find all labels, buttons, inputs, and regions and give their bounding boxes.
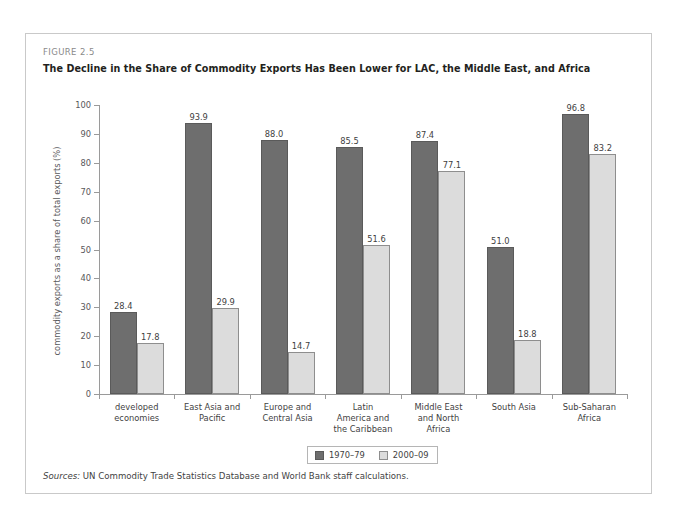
sources-note: Sources: UN Commodity Trade Statistics D… (43, 471, 409, 481)
y-tick (94, 192, 99, 193)
bar-value-label: 87.4 (416, 130, 434, 140)
legend-item-1970-79: 1970–79 (315, 450, 365, 460)
x-category-label-line: Central Asia (250, 413, 325, 424)
bar[interactable]: 85.5 (336, 147, 363, 394)
legend-swatch-2000-09 (379, 451, 388, 460)
x-category-label: LatinAmerica andthe Caribbean (325, 402, 400, 436)
x-axis-line (99, 394, 628, 395)
y-tick (94, 278, 99, 279)
bar-value-label: 96.8 (567, 103, 585, 113)
y-tick-label: 30 (80, 302, 91, 312)
bar[interactable]: 83.2 (589, 154, 616, 394)
x-category-label: developedeconomies (99, 402, 174, 424)
bar-value-label: 14.7 (292, 341, 310, 351)
bar-value-label: 28.4 (114, 301, 132, 311)
x-tick (325, 394, 326, 399)
y-axis-line (99, 105, 100, 394)
bar[interactable]: 88.0 (261, 140, 288, 394)
bar[interactable]: 51.0 (487, 247, 514, 394)
x-category-label-line: Pacific (174, 413, 249, 424)
plot-region: 0102030405060708090100 28.417.893.929.98… (99, 105, 627, 394)
x-category-label-line: America and (325, 413, 400, 424)
x-tick (627, 394, 628, 399)
bar[interactable]: 51.6 (363, 245, 390, 394)
y-tick-label: 10 (80, 360, 91, 370)
y-tick-label: 20 (80, 331, 91, 341)
chart-area: commodity exports as a share of total ex… (26, 34, 653, 434)
sources-text: UN Commodity Trade Statistics Database a… (80, 471, 409, 481)
x-category-label-line: developed (99, 402, 174, 413)
bar-value-label: 29.9 (216, 297, 234, 307)
y-tick-label: 100 (75, 100, 91, 110)
y-tick (94, 163, 99, 164)
bar-value-label: 77.1 (443, 160, 461, 170)
legend-item-2000-09: 2000–09 (379, 450, 429, 460)
bar[interactable]: 96.8 (562, 114, 589, 394)
x-category-label-line: Sub-Saharan (552, 402, 627, 413)
x-category-label-line: Africa (552, 413, 627, 424)
x-category-label-line: Europe and (250, 402, 325, 413)
bar-value-label: 85.5 (340, 136, 358, 146)
y-tick (94, 221, 99, 222)
y-tick-label: 80 (80, 158, 91, 168)
bar-value-label: 88.0 (265, 129, 283, 139)
bar[interactable]: 93.9 (185, 123, 212, 394)
bar-value-label: 51.0 (491, 236, 509, 246)
x-tick (99, 394, 100, 399)
legend-label-1970-79: 1970–79 (329, 450, 365, 460)
x-category-label-line: Middle East (401, 402, 476, 413)
bar-value-label: 17.8 (141, 332, 159, 342)
y-tick (94, 134, 99, 135)
bar[interactable]: 17.8 (137, 343, 164, 394)
x-tick (174, 394, 175, 399)
y-tick (94, 336, 99, 337)
y-axis-title: commodity exports as a share of total ex… (52, 136, 62, 366)
x-category-label-line: economies (99, 413, 174, 424)
x-tick (476, 394, 477, 399)
bar-value-label: 18.8 (518, 329, 536, 339)
y-tick-label: 0 (86, 389, 91, 399)
x-category-label-line: the Caribbean (325, 424, 400, 435)
y-tick-label: 70 (80, 187, 91, 197)
x-category-label-line: East Asia and (174, 402, 249, 413)
x-category-label: Europe andCentral Asia (250, 402, 325, 424)
x-category-label-line: Africa (401, 424, 476, 435)
bar-value-label: 83.2 (594, 143, 612, 153)
bar[interactable]: 28.4 (110, 312, 137, 394)
sources-label: Sources: (43, 471, 80, 481)
bar-value-label: 51.6 (367, 234, 385, 244)
y-tick-label: 60 (80, 216, 91, 226)
bar[interactable]: 14.7 (288, 352, 315, 394)
y-tick (94, 365, 99, 366)
y-tick-label: 40 (80, 273, 91, 283)
bar[interactable]: 18.8 (514, 340, 541, 394)
x-category-label-line: Latin (325, 402, 400, 413)
x-category-label: Middle Eastand NorthAfrica (401, 402, 476, 436)
y-tick-label: 50 (80, 245, 91, 255)
y-tick (94, 105, 99, 106)
legend-label-2000-09: 2000–09 (393, 450, 429, 460)
x-tick (401, 394, 402, 399)
bar[interactable]: 77.1 (438, 171, 465, 394)
x-category-label: East Asia andPacific (174, 402, 249, 424)
legend-swatch-1970-79 (315, 451, 324, 460)
y-tick (94, 307, 99, 308)
y-tick (94, 250, 99, 251)
x-category-label: South Asia (476, 402, 551, 413)
x-tick (552, 394, 553, 399)
figure-panel: FIGURE 2.5 The Decline in the Share of C… (25, 33, 652, 494)
y-tick-label: 90 (80, 129, 91, 139)
x-category-label: Sub-SaharanAfrica (552, 402, 627, 424)
bar[interactable]: 29.9 (212, 308, 239, 394)
chart-legend: 1970–79 2000–09 (307, 446, 438, 464)
bar-value-label: 93.9 (189, 112, 207, 122)
x-category-label-line: South Asia (476, 402, 551, 413)
x-tick (250, 394, 251, 399)
x-category-label-line: and North (401, 413, 476, 424)
bar[interactable]: 87.4 (411, 141, 438, 394)
